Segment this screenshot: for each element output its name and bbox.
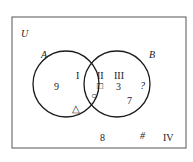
set-b-label: B — [149, 49, 155, 60]
venn-diagram: U A B I II III IV 9 △ □ ○ 3 ? 7 8 # — [0, 0, 193, 162]
region-iii-label: III — [114, 70, 124, 81]
triangle-icon: △ — [72, 103, 80, 114]
element-8: 8 — [100, 132, 105, 143]
element-3: 3 — [116, 81, 121, 92]
element-7: 7 — [127, 95, 132, 106]
square-icon: □ — [97, 80, 103, 91]
region-iv-label: IV — [163, 132, 174, 143]
circle-icon: ○ — [91, 90, 97, 101]
universe-label: U — [21, 28, 29, 39]
set-a-label: A — [40, 49, 48, 60]
set-a-circle — [33, 51, 99, 117]
element-9: 9 — [54, 81, 59, 92]
element-question-mark: ? — [140, 80, 145, 91]
region-i-label: I — [76, 70, 79, 81]
element-hash: # — [140, 130, 146, 141]
